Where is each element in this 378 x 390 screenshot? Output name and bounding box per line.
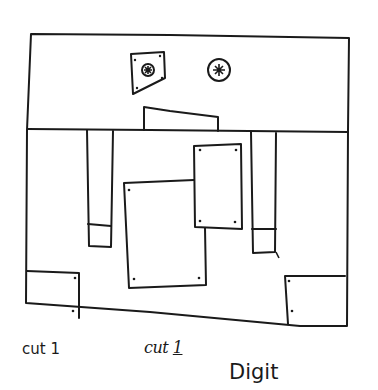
left-pillar-segment	[88, 224, 111, 226]
bottom-left-block	[27, 271, 79, 318]
left-pillar	[87, 130, 113, 247]
handwritten-number: 1	[173, 338, 183, 357]
handwritten-prefix: cut	[144, 338, 173, 357]
typed-cut-label: cut 1	[22, 340, 60, 358]
hand-drawn-diagram	[0, 0, 378, 390]
right-pillar	[251, 132, 276, 253]
center-front-panel	[194, 144, 242, 229]
handwritten-cut-label: cut 1	[144, 338, 182, 357]
divider-line	[28, 129, 348, 132]
right-eye-pupil-icon	[213, 64, 225, 76]
left-eye-pupil-icon	[144, 66, 152, 74]
digit-label: Digit	[229, 360, 278, 384]
nose-shape	[144, 107, 218, 131]
bottom-right-block	[285, 276, 345, 324]
